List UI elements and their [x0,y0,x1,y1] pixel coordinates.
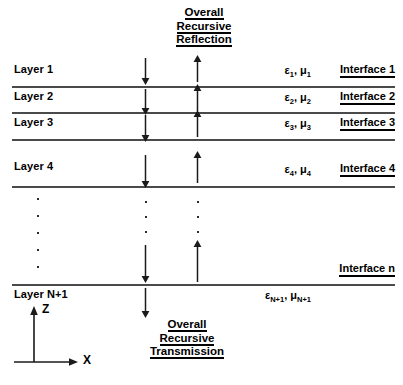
caption-bottom-line-2: Recursive [133,332,241,346]
up-arrow-layer-4 [192,151,203,183]
layer-label-n-plus-1: Layer N+1 [14,288,68,300]
up-arrow-layer-3 [192,110,203,137]
material-params-3: ε3, μ3 [285,117,311,129]
ellipsis-dot [37,249,39,251]
epsilon-symbol-3: ε [285,117,290,129]
interface-line-2 [12,112,395,114]
material-params-1: ε1, μ1 [285,64,311,76]
epsilon-subscript-3: 3 [290,123,294,132]
ellipsis-dot [197,201,199,203]
layer-label-3: Layer 3 [14,116,53,128]
mu-subscript-2: 2 [307,97,311,106]
mu-symbol-4: μ [300,163,307,175]
axis-label-z: Z [42,302,49,316]
ellipsis-dot [37,215,39,217]
down-arrow-interface-n [140,245,151,283]
caption-bottom-line-3: Transmission [133,345,241,359]
layer-label-4: Layer 4 [14,160,53,172]
epsilon-subscript-4: 4 [290,169,294,178]
ellipsis-dot [37,266,39,268]
caption-bottom-line-1: Overall [133,318,241,332]
interface-label-n: Interface n [339,262,395,277]
material-params-2: ε2, μ2 [285,91,311,103]
ellipsis-dot [197,231,199,233]
up-arrow-layer-2 [192,84,203,111]
interface-line-4 [12,186,395,188]
ellipsis-dot [37,232,39,234]
interface-label-4: Interface 4 [340,162,395,177]
epsilon-symbol-2: ε [285,91,290,103]
material-params-4: ε4, μ4 [285,163,311,175]
down-arrow-layer-4 [140,155,151,188]
mu-subscript-1: 1 [307,70,311,79]
epsilon-symbol-1: ε [285,64,290,76]
mu-symbol-3: μ [300,117,307,129]
caption-line-3: Reflection [168,33,240,47]
epsilon-subscript-1: 1 [290,70,294,79]
caption-line-2: Recursive [168,20,240,34]
layer-label-1: Layer 1 [14,63,53,75]
multilayer-reflection-diagram: Overall Recursive Reflection Layer 1 ε1,… [0,0,403,385]
epsilon-subscript-n-plus-1: N+1 [270,295,284,304]
axes-svg [8,300,108,380]
ellipsis-dot [145,216,147,218]
epsilon-symbol-4: ε [285,163,290,175]
interface-label-1: Interface 1 [340,63,395,78]
coordinate-axes: Z X [8,300,108,384]
mu-subscript-3: 3 [307,123,311,132]
overall-recursive-transmission-caption: Overall Recursive Transmission [133,318,241,359]
down-arrow-layer-1 [140,58,151,85]
interface-label-2: Interface 2 [340,90,395,105]
interface-line-n [12,284,395,286]
epsilon-subscript-2: 2 [290,97,294,106]
down-arrow-transmitted [140,288,151,318]
down-arrow-layer-3 [140,115,151,142]
ellipsis-dot [37,198,39,200]
overall-recursive-reflection-caption: Overall Recursive Reflection [168,6,240,47]
up-arrow-interface-n [192,240,203,282]
mu-symbol-1: μ [300,64,307,76]
ellipsis-dot [145,201,147,203]
ellipsis-dot [197,216,199,218]
interface-line-3 [12,139,395,141]
down-arrow-layer-2 [140,89,151,115]
ellipsis-dot [145,231,147,233]
material-params-n-plus-1: εN+1, μN+1 [265,289,311,301]
mu-symbol-2: μ [300,91,307,103]
caption-line-1: Overall [168,6,240,20]
axis-label-x: X [83,353,91,367]
layer-label-2: Layer 2 [14,90,53,102]
interface-line-1 [12,86,395,88]
up-arrow-layer-1 [192,55,203,82]
interface-label-3: Interface 3 [340,116,395,131]
mu-subscript-4: 4 [307,169,311,178]
mu-subscript-n-plus-1: N+1 [297,295,311,304]
